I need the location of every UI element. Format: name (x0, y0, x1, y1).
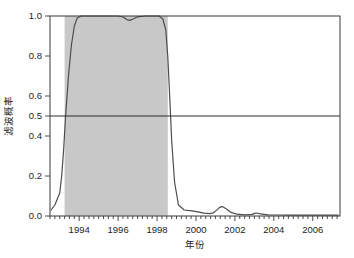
x-axis-ticks: 1994199619982000200220042006 (50, 216, 337, 235)
y-tick-label: 0.2 (29, 170, 42, 181)
y-axis-title: 滤波概率 (3, 96, 14, 136)
y-tick-label: 0.0 (29, 210, 42, 221)
figure-container: 1994199619982000200220042006 0.00.20.40.… (0, 0, 354, 258)
x-tick-label: 2004 (263, 224, 284, 235)
x-axis-title: 年份 (185, 239, 205, 250)
y-tick-label: 1.0 (29, 10, 42, 21)
y-axis-ticks: 0.00.20.40.50.60.81.0 (29, 10, 50, 221)
y-tick-label: 0.8 (29, 50, 42, 61)
y-tick-label: 0.4 (29, 130, 42, 141)
x-tick-label: 2000 (185, 224, 206, 235)
x-tick-label: 1994 (69, 224, 90, 235)
y-tick-label: 0.6 (29, 90, 42, 101)
filtered-probability-chart: 1994199619982000200220042006 0.00.20.40.… (0, 0, 354, 258)
x-tick-label: 1996 (108, 224, 129, 235)
x-tick-label: 1998 (146, 224, 167, 235)
x-tick-label: 2006 (302, 224, 323, 235)
y-tick-label: 0.5 (29, 110, 42, 121)
x-tick-label: 2002 (224, 224, 245, 235)
